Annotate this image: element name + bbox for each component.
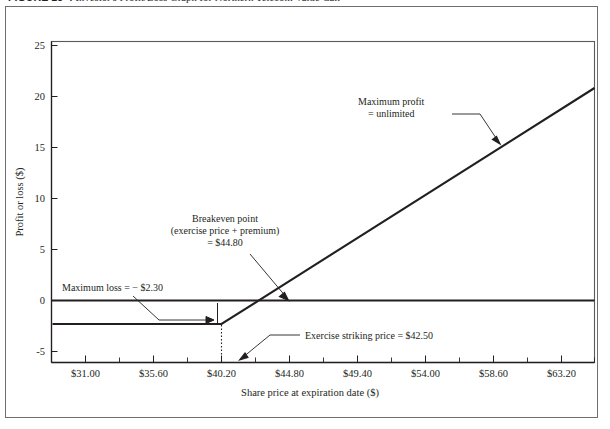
annotation-line: = $44.80 <box>207 237 243 248</box>
y-tick-label: -5 <box>36 346 45 357</box>
y-tick-label: 10 <box>35 193 46 204</box>
x-axis-ticks <box>86 356 595 363</box>
y-axis-tick-labels: 25 20 15 10 5 0 -5 <box>35 40 46 357</box>
exercise-price-leader <box>242 335 300 358</box>
annotation-maximum-loss: Maximum loss = − $2.30 <box>62 282 218 324</box>
annotation-maximum-profit: Maximum profit = unlimited <box>358 96 500 144</box>
x-tick-label: $31.00 <box>71 368 100 379</box>
x-tick-label: $54.00 <box>411 368 440 379</box>
x-tick-label: $58.60 <box>479 368 508 379</box>
breakeven-arrowhead <box>280 293 289 301</box>
y-tick-label: 25 <box>35 40 46 51</box>
y-tick-label: 0 <box>40 295 45 306</box>
annotation-line: Exercise striking price = $42.50 <box>305 330 433 341</box>
x-axis-title: Share price at expiration date ($) <box>241 387 379 399</box>
annotation-line: Breakeven point <box>192 213 258 224</box>
annotation-line: (exercise price + premium) <box>171 225 280 237</box>
x-tick-label: $40.20 <box>207 368 236 379</box>
y-tick-label: 5 <box>40 244 45 255</box>
profit-loss-chart: 25 20 15 10 5 0 -5 Profit or loss ($) $3… <box>0 0 610 429</box>
annotation-exercise-striking-price: Exercise striking price = $42.50 <box>240 330 434 360</box>
maximum-loss-arrowhead <box>206 317 214 324</box>
maximum-profit-arrowhead <box>493 137 501 145</box>
x-tick-label: $63.20 <box>547 368 576 379</box>
y-axis-ticks <box>52 46 58 352</box>
annotation-line: Maximum loss = − $2.30 <box>62 282 163 293</box>
annotation-line: = unlimited <box>368 108 414 119</box>
annotation-breakeven-point: Breakeven point (exercise price + premiu… <box>171 213 289 301</box>
y-axis-title: Profit or loss ($) <box>14 167 26 237</box>
x-axis-tick-labels: $31.00 $35.60 $40.20 $44.80 $49.40 $54.0… <box>71 368 576 379</box>
annotation-line: Maximum profit <box>358 96 425 107</box>
plot-frame <box>52 42 595 363</box>
y-tick-label: 20 <box>35 91 46 102</box>
x-tick-label: $49.40 <box>343 368 372 379</box>
breakeven-leader <box>250 254 287 298</box>
x-tick-label: $35.60 <box>139 368 168 379</box>
x-tick-label: $44.80 <box>275 368 304 379</box>
y-tick-label: 15 <box>35 142 46 153</box>
